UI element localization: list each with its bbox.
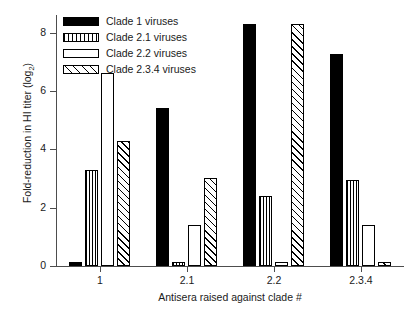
bar [259,196,272,266]
x-tick-label: 2.2 [244,274,304,287]
y-axis-title-subscript: 2 [27,66,36,70]
y-tick-mark [50,149,56,150]
x-tick-mark [100,267,101,272]
bar [291,24,304,266]
legend-item-clade-2-3-4: Clade 2.3.4 viruses [63,62,196,77]
y-axis-line [56,15,57,267]
bar [204,178,217,266]
chart-legend: Clade 1 viruses Clade 2.1 viruses Clade … [63,14,196,78]
bar [172,262,185,266]
y-tick-label: 8 [16,27,46,38]
y-tick-mark [50,91,56,92]
y-axis-title-tail: ) [21,63,33,67]
bar [156,108,169,266]
legend-swatch-open-icon [63,49,99,58]
y-tick-mark [50,33,56,34]
bar [378,262,391,266]
x-tick-label: 1 [70,274,130,287]
y-tick-label: 2 [16,202,46,213]
legend-swatch-vertical-lines-icon [63,33,99,42]
y-tick-label: 4 [16,143,46,154]
legend-item-clade-1: Clade 1 viruses [63,14,196,29]
x-tick-label: 2.3.4 [331,274,391,287]
bar [346,180,359,266]
x-tick-mark [361,267,362,272]
bar [275,262,288,266]
legend-item-clade-2-2: Clade 2.2 viruses [63,46,196,61]
legend-label-clade-2-2: Clade 2.2 viruses [106,48,187,59]
bar [117,141,130,267]
x-tick-label: 2.1 [157,274,217,287]
legend-label-clade-2-1: Clade 2.1 viruses [106,32,187,43]
y-tick-mark [50,208,56,209]
legend-swatch-solid-icon [63,17,99,26]
chart-figure: Fold-reduction in HI titer (log2) 02468 … [0,0,416,318]
bar [69,262,82,266]
bar [188,225,201,266]
legend-item-clade-2-1: Clade 2.1 viruses [63,30,196,45]
bar [85,170,98,266]
y-tick-mark [50,266,56,267]
y-tick-label: 0 [16,260,46,271]
y-tick-label: 6 [16,85,46,96]
bar [362,225,375,266]
legend-swatch-diagonal-hatch-icon [63,65,99,74]
legend-label-clade-1: Clade 1 viruses [106,16,178,27]
y-axis-title: Fold-reduction in HI titer (log2) [18,0,36,266]
bar [243,24,256,266]
x-axis-line [56,266,404,267]
legend-label-clade-2-3-4: Clade 2.3.4 viruses [106,64,196,75]
bar [101,73,114,266]
x-tick-mark [187,267,188,272]
bar [330,54,343,266]
x-axis-title: Antisera raised against clade # [56,291,404,303]
x-tick-mark [274,267,275,272]
